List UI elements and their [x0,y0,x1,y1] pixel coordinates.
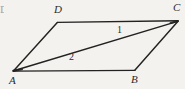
vertex-label-C: C [173,2,180,13]
geometry-figure: D D C A B 1 2 [0,0,185,89]
parallelogram-diagram-svg [0,0,185,89]
vertex-label-B: B [131,74,138,85]
angle-label-2: 2 [69,52,74,62]
angle-label-1: 1 [117,25,122,35]
diagonal-AC-line [14,21,178,70]
vertex-label-A: A [9,75,16,86]
side-BA-line [14,70,135,71]
vertex-label-D: D [54,4,62,15]
side-DC-line [58,21,179,23]
